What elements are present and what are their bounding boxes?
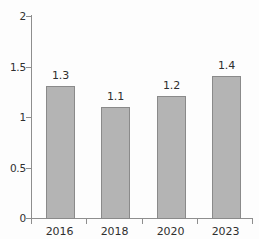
bar-chart: 2 1.5 1 0.5 0 1.3 1.1 1.2 1.4 2016 2018 … [0,0,259,239]
y-tick-label-1: 0.5 [2,163,26,174]
y-tick-label-3: 1.5 [2,62,26,73]
bar-2023[interactable] [212,76,241,219]
x-tick-mark-0 [31,219,32,224]
y-axis-line [31,15,32,219]
x-tick-mark-3 [197,219,198,224]
bar-value-2023: 1.4 [206,60,247,71]
y-tick-label-0: 0 [2,213,26,224]
y-tick-mark-4 [26,16,31,17]
x-tick-mark-4 [252,219,253,224]
x-axis-label-2016: 2016 [33,226,86,237]
x-tick-mark-1 [86,219,87,224]
y-tick-label-4: 2 [2,11,26,22]
bar-value-2016: 1.3 [40,70,81,81]
bar-value-2020: 1.2 [151,80,192,91]
y-tick-mark-3 [26,67,31,68]
bar-2018[interactable] [101,107,130,219]
bar-value-2018: 1.1 [95,91,136,102]
x-axis-label-2020: 2020 [144,226,197,237]
x-tick-mark-2 [142,219,143,224]
y-tick-label-2: 1 [2,112,26,123]
bar-2016[interactable] [46,86,75,219]
x-axis-label-2018: 2018 [88,226,141,237]
y-tick-mark-1 [26,168,31,169]
x-axis-label-2023: 2023 [199,226,252,237]
bar-2020[interactable] [157,96,186,219]
y-tick-mark-2 [26,117,31,118]
